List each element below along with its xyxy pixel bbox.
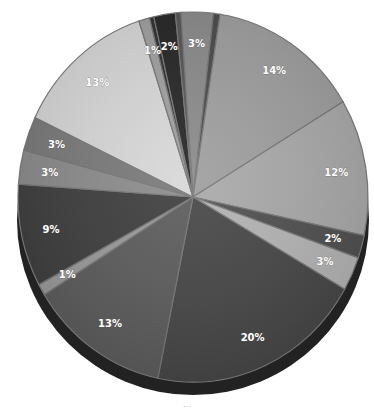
slice-label: 2% (324, 233, 341, 244)
slice-label: 14% (262, 65, 286, 76)
slice-label: 3% (41, 167, 58, 178)
slice-label: 3% (317, 256, 334, 267)
slice-label: 1% (144, 45, 161, 56)
slice-label: 2% (161, 41, 178, 52)
pie-slices (18, 12, 368, 382)
slice-label: 12% (324, 167, 348, 178)
slice-label: 3% (188, 38, 205, 49)
slice-label: 13% (85, 77, 109, 88)
chart-caption: … (0, 400, 374, 409)
pie-chart: 3%14%12%2%3%20%13%1%9%3%3%13%1%2% (0, 0, 374, 410)
slice-label: 3% (48, 139, 65, 150)
slice-label: 1% (59, 269, 76, 280)
slice-label: 13% (98, 318, 122, 329)
slice-label: 9% (43, 224, 60, 235)
slice-label: 20% (241, 332, 265, 343)
